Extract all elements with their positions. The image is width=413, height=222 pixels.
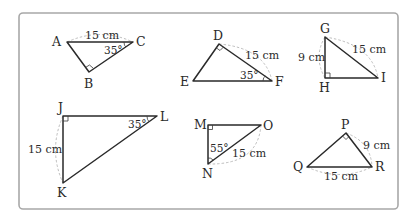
angle-label-l: 35° xyxy=(128,118,147,130)
vertex-label-r: R xyxy=(375,159,385,174)
side-label-df: 15 cm xyxy=(245,49,280,62)
side-label-qr: 15 cm xyxy=(324,170,359,183)
vertex-label-d: D xyxy=(213,28,223,43)
angle-label-f: 35° xyxy=(240,69,259,81)
angle-label-n: 55° xyxy=(210,142,229,154)
triangles-figure: A B C 15 cm 35° D E F 15 cm 35° G H I 9 … xyxy=(0,0,413,222)
vertex-label-o: O xyxy=(263,118,273,133)
vertex-label-e: E xyxy=(180,74,189,89)
vertex-label-f: F xyxy=(275,74,284,89)
vertex-label-c: C xyxy=(136,34,146,49)
vertex-label-m: M xyxy=(194,117,207,132)
vertex-label-g: G xyxy=(320,21,330,36)
side-label-gi: 15 cm xyxy=(352,43,387,56)
side-label-ac: 15 cm xyxy=(85,29,120,42)
side-label-gh: 9 cm xyxy=(298,51,326,64)
vertex-label-l: L xyxy=(160,109,168,124)
vertex-label-h: H xyxy=(319,80,330,95)
vertex-label-q: Q xyxy=(293,159,303,174)
vertex-label-p: P xyxy=(341,117,349,132)
angle-label-c: 35° xyxy=(104,44,123,56)
vertex-label-a: A xyxy=(51,34,62,49)
side-label-pr: 9 cm xyxy=(363,139,391,152)
vertex-label-i: I xyxy=(381,70,386,85)
vertex-label-k: K xyxy=(57,185,67,200)
vertex-label-b: B xyxy=(84,76,93,91)
vertex-label-j: J xyxy=(56,100,63,115)
side-label-no: 15 cm xyxy=(232,147,267,160)
side-label-jk: 15 cm xyxy=(28,143,63,156)
vertex-label-n: N xyxy=(202,166,213,181)
